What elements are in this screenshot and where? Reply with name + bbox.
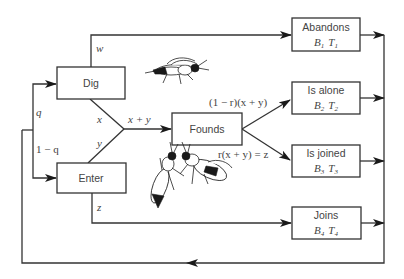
edge-x (90, 99, 124, 129)
label-z: z (96, 201, 102, 213)
node-enter: Enter (57, 163, 126, 193)
node-dig: Dig (57, 67, 125, 99)
node-joins-label: Joins (314, 209, 339, 221)
node-is-joined-label: Is joined (306, 147, 345, 159)
label-w: w (96, 42, 104, 54)
label-x: x (96, 113, 102, 125)
label-q: q (36, 106, 42, 118)
node-enter-label: Enter (78, 172, 104, 184)
label-joined-rate: r(x + y) = z (218, 148, 268, 161)
node-dig-label: Dig (83, 77, 99, 89)
single-wasp-illustration (145, 58, 209, 84)
node-is-joined: Is joined B3T3 (292, 145, 360, 177)
label-x-plus-y: x + y (127, 113, 151, 125)
label-y: y (96, 137, 102, 149)
node-founds-label: Founds (189, 123, 224, 135)
node-abandons: Abandons B1T1 (292, 18, 360, 51)
wasp-decision-diagram: q 1 − q w x y z x + y (1 − r)(x + y) r(x… (0, 0, 404, 279)
node-is-alone-label: Is alone (308, 84, 345, 96)
node-abandons-label: Abandons (302, 21, 349, 33)
node-is-alone: Is alone B2T2 (292, 82, 360, 114)
node-founds: Founds (172, 113, 242, 145)
edge-z (92, 193, 291, 223)
label-one-minus-q: 1 − q (36, 143, 59, 155)
node-joins: Joins B4T4 (292, 207, 361, 239)
label-alone-rate: (1 − r)(x + y) (209, 96, 268, 109)
edge-y (88, 129, 124, 163)
